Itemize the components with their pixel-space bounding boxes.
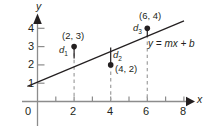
- best-fit-line: [27, 21, 184, 87]
- y-tick-label-2: 2: [28, 59, 34, 70]
- y-tick-label-3: 3: [28, 41, 34, 52]
- data-point-2-3: [71, 44, 77, 50]
- y-tick-label-4: 4: [28, 23, 34, 34]
- point-label-4-2: (4, 2): [115, 64, 137, 74]
- x-tick-label-2: 2: [70, 106, 76, 117]
- y-tick-marks: [38, 28, 45, 83]
- coordinate-plane-figure: y x 0 4 3 2 1 2 4 6 8 (2, 3) (4, 2) (6, …: [0, 0, 210, 126]
- data-point-6-4: [145, 26, 151, 32]
- residual-label-d2-sub: 2: [118, 55, 122, 62]
- point-label-6-4: (6, 4): [139, 11, 161, 21]
- origin-label: 0: [25, 106, 31, 117]
- residual-label-d3-sub: 3: [138, 28, 142, 35]
- x-tick-label-8: 8: [180, 106, 186, 117]
- y-axis-arrowhead: [33, 14, 42, 25]
- y-tick-label-1: 1: [28, 78, 34, 89]
- residual-label-d1-sub: 1: [64, 50, 68, 57]
- x-tick-label-4: 4: [107, 106, 113, 117]
- line-equation-label: y = mx + b: [148, 39, 195, 49]
- residual-label-d3: d3: [133, 23, 142, 35]
- point-label-2-3: (2, 3): [62, 31, 84, 41]
- x-tick-label-6: 6: [143, 106, 149, 117]
- x-tick-marks: [56, 97, 184, 102]
- x-axis-arrowhead: [186, 97, 195, 106]
- y-axis-label: y: [36, 1, 41, 12]
- residual-label-d1: d1: [59, 45, 68, 57]
- x-axis-label: x: [197, 94, 202, 105]
- data-point-4-2: [108, 62, 114, 68]
- residual-label-d2: d2: [113, 50, 122, 62]
